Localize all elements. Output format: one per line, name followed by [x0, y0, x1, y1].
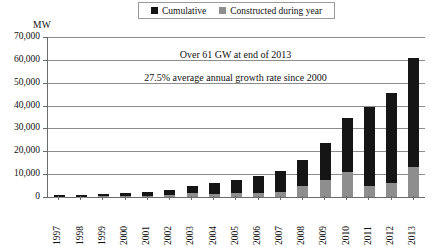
x-axis-label-slot: 2012 — [380, 200, 402, 245]
y-axis-tick-label: 10,000 — [0, 169, 40, 179]
x-axis-labels: 1997199819992000200120022003200420052006… — [47, 200, 424, 245]
bar-segment-constructed-during-year — [297, 186, 308, 197]
x-axis-tick-label: 2005 — [231, 200, 241, 245]
y-axis-tick-label: 30,000 — [0, 123, 40, 133]
bar-slot[interactable] — [314, 37, 336, 197]
x-axis-tick-label: 2004 — [209, 200, 219, 245]
legend-label-cumulative: Cumulative — [162, 6, 206, 16]
y-axis-tick-label: 20,000 — [0, 146, 40, 156]
x-axis-label-slot: 2000 — [114, 200, 136, 245]
bar-slot[interactable] — [70, 37, 92, 197]
x-axis-tick-label: 2003 — [186, 200, 196, 245]
bar-slot[interactable] — [115, 37, 137, 197]
stacked-bar[interactable] — [408, 58, 419, 197]
stacked-bar[interactable] — [320, 143, 331, 197]
stacked-bar[interactable] — [142, 192, 153, 197]
x-axis-tick-label: 2011 — [364, 200, 374, 245]
x-axis-label-slot: 1999 — [91, 200, 113, 245]
bar-slot[interactable] — [248, 37, 270, 197]
bar-segment-cumulative — [408, 58, 419, 168]
x-axis-label-slot: 2013 — [402, 200, 424, 245]
legend-swatch-cumulative — [151, 7, 158, 14]
bar-segment-constructed-during-year — [142, 196, 153, 197]
x-axis-tick-label: 2006 — [253, 200, 263, 245]
stacked-bar[interactable] — [209, 183, 220, 197]
bar-slot[interactable] — [92, 37, 114, 197]
x-axis-tick-label: 1999 — [98, 200, 108, 245]
x-axis-tick-label: 2000 — [120, 200, 130, 245]
bar-group — [48, 37, 425, 197]
bar-segment-constructed-during-year — [120, 196, 131, 197]
x-axis-label-slot: 2007 — [269, 200, 291, 245]
y-axis-tick-label: 40,000 — [0, 101, 40, 111]
stacked-bar[interactable] — [54, 195, 65, 197]
bar-segment-cumulative — [386, 93, 397, 183]
x-axis-tick-label: 2012 — [386, 200, 396, 245]
x-axis-tick-label: 2009 — [319, 200, 329, 245]
stacked-bar[interactable] — [297, 160, 308, 197]
x-axis-tick-label: 1998 — [76, 200, 86, 245]
stacked-bar[interactable] — [120, 193, 131, 197]
bar-slot[interactable] — [137, 37, 159, 197]
bar-slot[interactable] — [336, 37, 358, 197]
bar-segment-cumulative — [231, 180, 242, 194]
stacked-bar[interactable] — [231, 180, 242, 197]
bar-slot[interactable] — [292, 37, 314, 197]
plot-area — [47, 37, 425, 198]
y-axis-tick-label: 50,000 — [0, 78, 40, 88]
stacked-bar[interactable] — [164, 190, 175, 197]
bar-segment-constructed-during-year — [231, 193, 242, 197]
stacked-bar[interactable] — [253, 176, 264, 197]
bar-slot[interactable] — [181, 37, 203, 197]
bar-slot[interactable] — [225, 37, 247, 197]
bar-slot[interactable] — [203, 37, 225, 197]
bar-segment-constructed-during-year — [342, 172, 353, 197]
bar-slot[interactable] — [270, 37, 292, 197]
stacked-bar[interactable] — [98, 194, 109, 197]
x-axis-label-slot: 2001 — [136, 200, 158, 245]
bar-segment-cumulative — [364, 107, 375, 186]
x-axis-label-slot: 2004 — [202, 200, 224, 245]
bar-segment-constructed-during-year — [98, 196, 109, 197]
stacked-bar[interactable] — [342, 118, 353, 197]
y-axis-tick-label: 60,000 — [0, 55, 40, 65]
bar-segment-cumulative — [342, 118, 353, 172]
x-axis-label-slot: 2008 — [291, 200, 313, 245]
chart-legend: Cumulative Constructed during year — [138, 2, 335, 19]
x-axis-tick-label: 2013 — [408, 200, 418, 245]
bar-slot[interactable] — [381, 37, 403, 197]
legend-item-constructed-during-year: Constructed during year — [219, 6, 322, 16]
stacked-bar[interactable] — [364, 107, 375, 197]
y-axis-tick-label: 70,000 — [0, 32, 40, 42]
x-axis-label-slot: 1998 — [69, 200, 91, 245]
bar-segment-cumulative — [297, 160, 308, 186]
x-axis-label-slot: 2002 — [158, 200, 180, 245]
bar-slot[interactable] — [358, 37, 380, 197]
bar-segment-constructed-during-year — [320, 180, 331, 197]
x-axis-label-slot: 2003 — [180, 200, 202, 245]
bar-segment-cumulative — [209, 183, 220, 194]
bar-segment-cumulative — [253, 176, 264, 193]
bar-slot[interactable] — [159, 37, 181, 197]
legend-item-cumulative: Cumulative — [151, 6, 206, 16]
bar-segment-constructed-during-year — [408, 167, 419, 197]
bar-segment-constructed-during-year — [364, 186, 375, 197]
x-axis-label-slot: 2010 — [335, 200, 357, 245]
x-axis-tick-label: 1997 — [53, 200, 63, 245]
bar-slot[interactable] — [48, 37, 70, 197]
y-axis-title: MW — [33, 20, 51, 30]
bar-segment-constructed-during-year — [164, 195, 175, 197]
x-axis-tick-label: 2007 — [275, 200, 285, 245]
bar-segment-constructed-during-year — [275, 192, 286, 197]
x-axis-label-slot: 2011 — [357, 200, 379, 245]
stacked-bar[interactable] — [275, 171, 286, 197]
stacked-bar[interactable] — [76, 195, 87, 197]
x-axis-label-slot: 2006 — [247, 200, 269, 245]
stacked-bar[interactable] — [386, 93, 397, 197]
bar-segment-cumulative — [275, 171, 286, 192]
x-axis-label-slot: 1997 — [47, 200, 69, 245]
stacked-bar[interactable] — [187, 186, 198, 197]
legend-label-constructed-during-year: Constructed during year — [230, 6, 322, 16]
bar-segment-constructed-during-year — [386, 183, 397, 197]
bar-slot[interactable] — [403, 37, 425, 197]
